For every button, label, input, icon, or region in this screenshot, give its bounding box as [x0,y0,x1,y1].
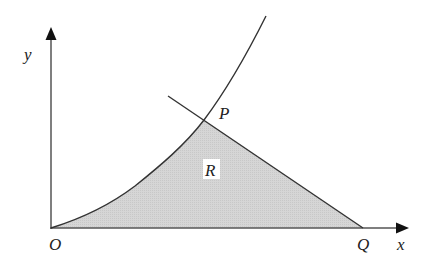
y-axis-arrow-icon [46,27,57,40]
x-axis-arrow-icon [396,223,409,234]
y-axis-label: y [22,45,32,64]
x-axis-label: x [396,235,405,254]
point-q-label: Q [357,235,369,254]
diagram-canvas: y x O Q P R [0,0,432,277]
point-p-label: P [218,104,229,123]
origin-label: O [49,235,61,254]
region-r-label: R [204,161,216,180]
